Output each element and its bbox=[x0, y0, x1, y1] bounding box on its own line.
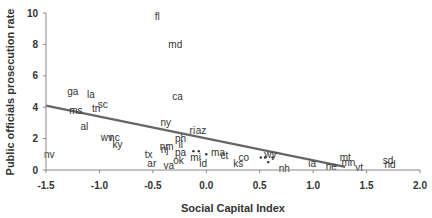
point-label-ne: ne bbox=[326, 161, 338, 172]
point-label-la: la bbox=[87, 89, 95, 100]
data-point-dot bbox=[264, 156, 266, 158]
x-tick-label: -1.5 bbox=[37, 180, 55, 191]
point-label-va: va bbox=[164, 160, 175, 171]
data-points: flmdcagalasctnmsnyriazalwvnckyphilnmnjpa… bbox=[44, 11, 396, 174]
y-tick-label: 6 bbox=[32, 70, 38, 81]
y-axis-title: Public officials prosecution rate bbox=[4, 9, 16, 176]
point-label-vt: vt bbox=[355, 162, 363, 173]
point-label-ia: ia bbox=[308, 158, 316, 169]
y-tick-label: 4 bbox=[32, 102, 38, 113]
point-label-nj: nj bbox=[161, 144, 169, 155]
data-point-dot bbox=[205, 153, 207, 155]
point-label-al: al bbox=[81, 121, 89, 132]
data-point-dot bbox=[260, 156, 262, 158]
point-label-ky: ky bbox=[113, 139, 123, 150]
point-label-ny: ny bbox=[160, 117, 171, 128]
x-tick-label: 1.0 bbox=[306, 180, 320, 191]
point-label-ks: ks bbox=[233, 158, 243, 169]
x-tick-label: -0.5 bbox=[144, 180, 162, 191]
x-tick-label: 1.5 bbox=[360, 180, 374, 191]
scatter-chart: flmdcagalasctnmsnyriazalwvnckyphilnmnjpa… bbox=[0, 0, 432, 218]
x-tick-label: 2.0 bbox=[413, 180, 427, 191]
data-point-dot bbox=[192, 150, 194, 152]
point-label-mn: mn bbox=[341, 157, 355, 168]
point-label-ca: ca bbox=[172, 91, 183, 102]
point-label-ar: ar bbox=[147, 158, 157, 169]
point-label-ms: ms bbox=[69, 105, 82, 116]
data-point-dot bbox=[271, 156, 273, 158]
x-tick-label: 0.5 bbox=[253, 180, 267, 191]
y-tick-label: 0 bbox=[32, 165, 38, 176]
point-label-ok: ok bbox=[173, 155, 185, 166]
point-label-az: az bbox=[196, 125, 207, 136]
point-label-nd: nd bbox=[385, 159, 396, 170]
x-tick-label: 0.0 bbox=[199, 180, 213, 191]
point-label-ct: ct bbox=[221, 150, 229, 161]
point-label-nh: nh bbox=[279, 163, 290, 174]
x-tick-label: -1.0 bbox=[91, 180, 109, 191]
x-axis-title: Social Capital Index bbox=[181, 202, 286, 214]
point-label-tn: tn bbox=[92, 103, 100, 114]
y-tick-label: 8 bbox=[32, 39, 38, 50]
data-point-dot bbox=[198, 150, 200, 152]
y-tick-label: 10 bbox=[27, 8, 39, 19]
y-tick-label: 2 bbox=[32, 133, 38, 144]
point-label-ri: ri bbox=[190, 125, 196, 136]
point-label-fl: fl bbox=[155, 11, 160, 22]
data-point-dot bbox=[267, 161, 269, 163]
point-label-md: md bbox=[168, 39, 182, 50]
point-label-ga: ga bbox=[67, 86, 79, 97]
point-label-id: id bbox=[199, 158, 207, 169]
